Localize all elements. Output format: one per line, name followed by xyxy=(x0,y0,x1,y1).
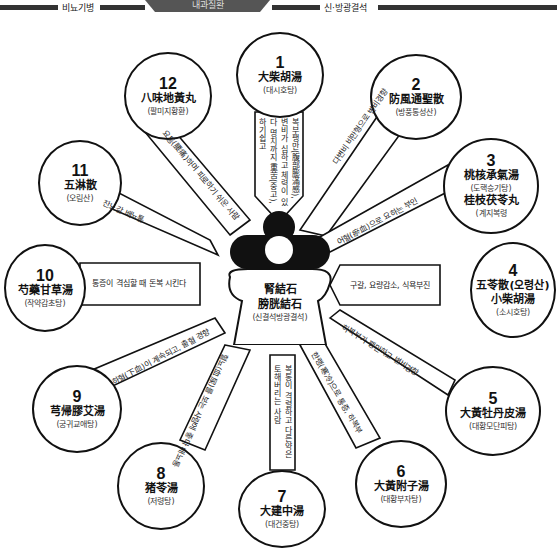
note-7: 복통이 격렬하고 다른약은 토해버리는 사람 xyxy=(273,365,293,465)
note-10: 통증이 격심할 때 돈복 시킨다 xyxy=(92,278,197,289)
node-8-jeoryeongtang: 8 猪苓湯 (저령탕) xyxy=(117,442,205,530)
node-3-dohaekseunggitang: 3 桃核承氣湯 (도핵승기탕) 桂枝茯苓丸 (계지복령 xyxy=(443,138,539,234)
center-condition: 腎結石 膀胱結石 (신결석방광결석) xyxy=(230,282,330,324)
note-4: 구갈, 요량감소, 식욕부진 xyxy=(350,280,430,291)
stone-figure-icon xyxy=(218,205,348,345)
node-12-palmijihwanghwan: 12 八味地黃丸 (팔미지황환) xyxy=(124,52,212,140)
node-11-orimsan: 11 五淋散 (오림산) xyxy=(38,140,122,226)
center-line2: 膀胱結石 xyxy=(230,297,330,312)
center-line1: 腎結石 xyxy=(230,282,330,297)
node-6-daehwangbujatang: 6 大黃附子湯 (대황부자탕) xyxy=(355,440,447,528)
node-4-oryeongsan: 4 五苓散(오령산) 小柴胡湯 (소시호탕) xyxy=(470,242,556,338)
node-5-daehwangmodanpitang: 5 大黃牡丹皮湯 (대황모단피탕) xyxy=(445,366,541,456)
center-reading: (신결석방광결석) xyxy=(230,312,330,324)
note-1: 복부팽만(腹部膨滿感), 변비가 심하고 체력이 있다 명치까지 重苦(중고),… xyxy=(260,118,300,208)
node-7-daegeonjungtang: 7 大建中湯 (대건중탕) xyxy=(238,470,326,548)
node-9-gunggwigyoaetang: 9 芎帰膠艾湯 (궁귀교애탕) xyxy=(32,365,122,453)
node-10-jakyakgamchotang: 10 芍藥甘草湯 (작약감초탕) xyxy=(4,244,86,332)
node-1-daesihotang: 1 大柴胡湯 (대시호탕) xyxy=(236,32,324,118)
